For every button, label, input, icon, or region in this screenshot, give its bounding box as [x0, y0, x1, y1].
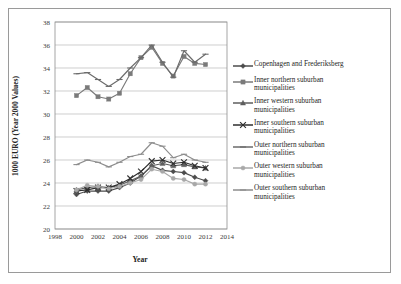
data-point — [182, 177, 186, 181]
data-point — [203, 182, 207, 186]
legend-item-label: Inner southern suburban municipalities — [254, 119, 324, 136]
y-axis-tick-labels: 20222426283032343638 — [43, 19, 51, 234]
legend-item-5[interactable]: Outer western suburban municipalities — [232, 162, 394, 179]
y-tick-label: 38 — [43, 19, 51, 27]
data-point — [96, 184, 100, 188]
data-point — [74, 94, 78, 98]
data-point — [128, 72, 132, 76]
x-tick-label: 2006 — [134, 233, 149, 241]
y-tick-label: 36 — [43, 42, 51, 50]
legend-marker-icon — [232, 77, 254, 87]
x-tick-label: 2002 — [91, 233, 106, 241]
y-tick-label: 22 — [43, 203, 51, 211]
data-point — [128, 181, 132, 185]
data-point — [96, 95, 100, 99]
y-tick-label: 26 — [43, 157, 51, 165]
legend-item-label: Outer northern suburban municipalities — [254, 141, 325, 158]
x-axis-title: Year — [133, 255, 149, 264]
data-point — [85, 183, 89, 187]
legend-item-6[interactable]: Outer southern suburban municipalities — [232, 184, 394, 201]
data-point — [117, 184, 121, 188]
legend-item-label: Inner western suburban municipalities — [254, 97, 321, 114]
legend-marker-icon — [232, 98, 254, 108]
y-tick-label: 32 — [43, 88, 51, 96]
legend: Copenhagen and FrederiksbergInner northe… — [232, 60, 394, 206]
data-point — [107, 97, 111, 101]
y-tick-label: 34 — [43, 65, 51, 73]
legend-item-label: Inner northern suburban municipalities — [254, 76, 323, 93]
legend-item-1[interactable]: Inner northern suburban municipalities — [232, 76, 394, 93]
data-point — [107, 187, 111, 191]
legend-item-3[interactable]: Inner southern suburban municipalities — [232, 119, 394, 136]
data-point — [150, 167, 154, 171]
series-4 — [73, 45, 208, 86]
plot-area-border — [55, 22, 227, 229]
legend-item-2[interactable]: Inner western suburban municipalities — [232, 97, 394, 114]
legend-marker-icon — [232, 120, 254, 130]
y-tick-label: 28 — [43, 134, 51, 142]
x-tick-label: 2014 — [220, 233, 235, 241]
legend-item-label: Outer southern suburban municipalities — [254, 184, 325, 201]
x-tick-label: 2012 — [199, 233, 214, 241]
series-2 — [74, 161, 208, 192]
data-point — [85, 85, 89, 89]
legend-marker-icon — [232, 163, 254, 173]
data-point — [74, 188, 78, 192]
data-point — [171, 176, 175, 180]
y-axis-title: 1000 EURO (Year 2000 Values) — [11, 76, 20, 176]
legend-marker-icon — [232, 142, 254, 152]
data-point — [193, 182, 197, 186]
data-point — [117, 91, 121, 95]
legend-item-label: Outer western suburban municipalities — [254, 162, 323, 179]
gridlines — [55, 22, 227, 229]
legend-marker-icon — [232, 185, 254, 195]
legend-item-label: Copenhagen and Frederiksberg — [254, 60, 344, 69]
legend-marker-icon — [232, 61, 254, 71]
data-point — [203, 62, 207, 66]
y-tick-label: 24 — [43, 180, 51, 188]
data-point — [182, 170, 187, 175]
x-tick-label: 2008 — [156, 233, 171, 241]
series-1 — [74, 45, 207, 101]
x-tick-label: 2010 — [177, 233, 192, 241]
x-axis-tick-labels: 199820002002200420062008201020122014 — [48, 233, 235, 241]
data-point — [192, 175, 197, 180]
legend-item-0[interactable]: Copenhagen and Frederiksberg — [232, 60, 394, 71]
data-point — [160, 169, 164, 173]
legend-item-4[interactable]: Outer northern suburban municipalities — [232, 141, 394, 158]
x-tick-label: 2000 — [70, 233, 85, 241]
data-point — [171, 169, 176, 174]
figure: 20222426283032343638 1998200020022004200… — [0, 0, 401, 284]
x-tick-label: 1998 — [48, 233, 63, 241]
data-point — [139, 177, 143, 181]
y-tick-label: 30 — [43, 111, 51, 119]
x-tick-label: 2004 — [113, 233, 128, 241]
